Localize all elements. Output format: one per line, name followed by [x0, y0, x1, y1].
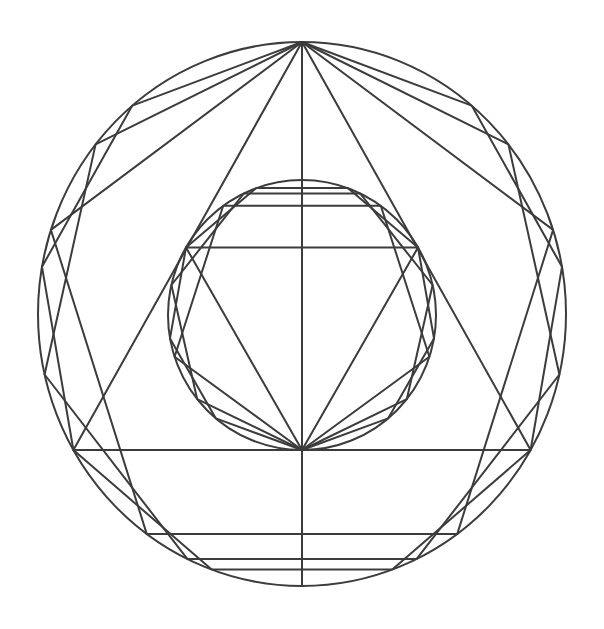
geometric-diagram — [0, 0, 604, 629]
diagram-canvas — [0, 0, 604, 629]
